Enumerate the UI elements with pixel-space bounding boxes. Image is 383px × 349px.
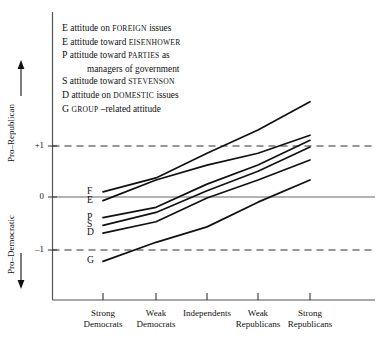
x-category-line2: Republicans	[236, 319, 281, 330]
x-category-line2: Democrats	[84, 319, 123, 330]
x-category-0: StrongDemocrats	[84, 308, 123, 329]
legend-pre: attitude toward	[70, 50, 126, 60]
x-category-line1: Strong	[288, 308, 333, 319]
legend-key: E	[62, 22, 68, 33]
legend-post: issues	[149, 23, 171, 33]
legend-item-parties: P attitude toward PARTIES as	[62, 49, 242, 63]
y-axis-label-pro-republican: Pro–Republican	[6, 104, 16, 162]
legend-item-group: G GROUP –related attitude	[62, 103, 242, 117]
series-line-D	[103, 160, 310, 233]
x-category-1: WeakDemocrats	[137, 308, 176, 329]
legend-key: E	[62, 36, 68, 47]
x-category-line1: Strong	[84, 308, 123, 319]
legend-post: issues	[156, 90, 178, 100]
y-axis-label-pro-democratic: Pro–Democratic	[6, 215, 16, 274]
legend-key: G	[62, 103, 69, 114]
x-tick-marks	[103, 293, 310, 300]
legend-key: S	[62, 75, 67, 86]
series-label-D: D	[87, 226, 94, 237]
legend-pre: attitude on	[71, 90, 111, 100]
legend-item-parties-continued: managers of government	[62, 63, 242, 76]
legend-pre: attitude toward	[70, 37, 126, 47]
series-label-G: G	[87, 254, 94, 265]
legend-caps: DOMESTIC	[113, 91, 154, 100]
legend-pre: attitude on	[70, 23, 110, 33]
chart-root: E attitude on FOREIGN issues E attitude …	[0, 0, 383, 349]
legend-post: as	[162, 50, 170, 60]
data-series-group	[103, 102, 310, 262]
legend-caps: PARTIES	[128, 51, 159, 60]
legend-caps: FOREIGN	[112, 24, 147, 33]
x-category-4: StrongRepublicans	[288, 308, 333, 329]
x-category-line2: Republicans	[288, 319, 333, 330]
x-category-2: Independents	[183, 308, 231, 319]
x-category-line1: Weak	[236, 308, 281, 319]
legend: E attitude on FOREIGN issues E attitude …	[62, 22, 242, 116]
x-category-line2: Democrats	[137, 319, 176, 330]
legend-caps: GROUP	[71, 105, 98, 114]
y-tick-label-plus-one: +1	[20, 140, 44, 150]
series-label-E: E	[87, 194, 93, 205]
legend-item-eisenhower: E attitude toward EISENHOWER	[62, 36, 242, 50]
legend-caps: EISENHOWER	[129, 38, 181, 47]
legend-item-foreign: E attitude on FOREIGN issues	[62, 22, 242, 36]
y-tick-label-zero: 0	[20, 191, 44, 201]
series-line-P	[103, 140, 310, 217]
legend-post: –related attitude	[101, 104, 161, 114]
x-category-line1: Independents	[183, 308, 231, 319]
legend-key: P	[62, 49, 67, 60]
y-tick-label-minus-one: –1	[20, 244, 44, 254]
series-line-S	[103, 147, 310, 225]
legend-caps: STEVENSON	[128, 77, 175, 86]
x-category-line1: Weak	[137, 308, 176, 319]
y-axis-arrows	[18, 60, 25, 289]
legend-key: D	[62, 89, 69, 100]
legend-item-domestic: D attitude on DOMESTIC issues	[62, 89, 242, 103]
legend-item-stevenson: S attitude toward STEVENSON	[62, 75, 242, 89]
x-category-3: WeakRepublicans	[236, 308, 281, 329]
series-line-G	[103, 180, 310, 261]
legend-pre: attitude toward	[70, 76, 126, 86]
